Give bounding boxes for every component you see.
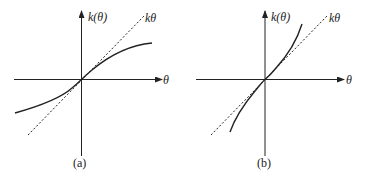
x-axis-label: θ bbox=[346, 73, 352, 87]
nonlinear-curve bbox=[15, 43, 152, 113]
reference-line-label: kθ bbox=[145, 11, 156, 25]
reference-line-label: kθ bbox=[329, 11, 340, 25]
figure: k(θ) kθ θ (a) k(θ) kθ θ (b) bbox=[0, 0, 365, 184]
panel-caption: (a) bbox=[73, 156, 86, 170]
y-axis-label: k(θ) bbox=[88, 10, 107, 24]
panel-a: k(θ) kθ θ (a) bbox=[14, 10, 169, 170]
x-axis-label: θ bbox=[163, 73, 169, 87]
nonlinear-curve bbox=[230, 24, 302, 132]
y-axis-label: k(θ) bbox=[271, 10, 290, 24]
panel-caption: (b) bbox=[257, 156, 271, 170]
panel-b: k(θ) kθ θ (b) bbox=[196, 10, 352, 170]
